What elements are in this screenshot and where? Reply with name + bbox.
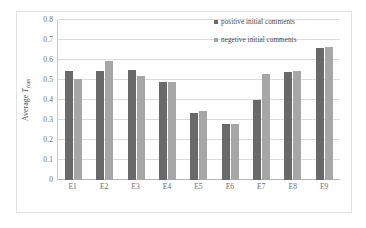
bar-E1-negative bbox=[74, 79, 82, 180]
bar-group bbox=[121, 20, 152, 180]
bar-group bbox=[58, 20, 89, 180]
legend-swatch-icon bbox=[214, 20, 218, 24]
bar-group bbox=[152, 20, 183, 180]
bar-E5-negative bbox=[199, 111, 207, 180]
x-axis-labels: E1E2E3E4E5E6E7E8E9 bbox=[57, 182, 340, 191]
x-tick-label-E1: E1 bbox=[57, 182, 88, 191]
bar-E8-negative bbox=[293, 71, 301, 180]
bar-E2-negative bbox=[105, 61, 113, 180]
y-tick-label: 0.5 bbox=[43, 75, 53, 84]
legend-entry-positive[interactable]: positive initial comments bbox=[214, 18, 297, 26]
bar-E7-negative bbox=[262, 74, 270, 180]
y-axis-title-symbol: T bbox=[21, 88, 30, 92]
bar-E9-positive bbox=[316, 48, 324, 180]
legend-swatch-icon bbox=[214, 38, 218, 42]
y-axis-title: Average Tcom bbox=[21, 79, 32, 121]
y-tick-label: 0.1 bbox=[43, 155, 53, 164]
bar-E4-positive bbox=[159, 82, 167, 180]
x-tick-label-E4: E4 bbox=[151, 182, 182, 191]
y-tick-label: 0.7 bbox=[43, 35, 53, 44]
bar-E3-negative bbox=[137, 76, 145, 180]
bar-E8-positive bbox=[284, 72, 292, 180]
bar-E1-positive bbox=[65, 71, 73, 180]
bar-group bbox=[215, 20, 246, 180]
x-tick-label-E8: E8 bbox=[277, 182, 308, 191]
bar-group bbox=[246, 20, 277, 180]
x-tick-label-E3: E3 bbox=[120, 182, 151, 191]
x-tick-label-E9: E9 bbox=[309, 182, 340, 191]
legend-label: positive initial comments bbox=[221, 18, 295, 26]
plot-area: 00.10.20.30.40.50.60.70.8 bbox=[57, 20, 340, 180]
bar-E7-positive bbox=[253, 100, 261, 180]
bars-layer bbox=[58, 20, 340, 180]
y-tick-label: 0.3 bbox=[43, 115, 53, 124]
bar-chart-figure: Average Tcom 00.10.20.30.40.50.60.70.8 E… bbox=[0, 0, 366, 228]
y-tick-label: 0.6 bbox=[43, 55, 53, 64]
y-tick-label: 0.4 bbox=[43, 95, 53, 104]
bar-group bbox=[309, 20, 340, 180]
x-tick-label-E7: E7 bbox=[246, 182, 277, 191]
y-axis-title-subscript: com bbox=[25, 79, 31, 88]
bar-E5-positive bbox=[190, 113, 198, 180]
y-tick-label: 0.2 bbox=[43, 135, 53, 144]
bar-E6-negative bbox=[231, 124, 239, 180]
bar-E4-negative bbox=[168, 82, 176, 180]
y-tick-label: 0 bbox=[49, 175, 53, 184]
bar-group bbox=[277, 20, 308, 180]
legend-entry-negative[interactable]: negetive initial comments bbox=[214, 36, 297, 44]
bar-E2-positive bbox=[96, 71, 104, 180]
x-tick-label-E2: E2 bbox=[88, 182, 119, 191]
y-tick-label: 0.8 bbox=[43, 15, 53, 24]
bar-group bbox=[89, 20, 120, 180]
y-axis-title-prefix: Average bbox=[21, 93, 30, 122]
bar-E9-negative bbox=[325, 47, 333, 180]
bar-group bbox=[183, 20, 214, 180]
chart-legend: positive initial commentsnegetive initia… bbox=[214, 18, 297, 44]
bar-E6-positive bbox=[222, 124, 230, 180]
x-tick-label-E6: E6 bbox=[214, 182, 245, 191]
x-tick-label-E5: E5 bbox=[183, 182, 214, 191]
legend-label: negetive initial comments bbox=[221, 36, 297, 44]
bar-E3-positive bbox=[128, 70, 136, 180]
